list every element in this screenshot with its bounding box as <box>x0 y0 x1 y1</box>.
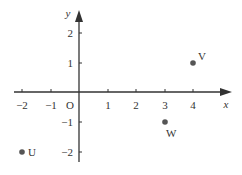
point-w-label: W <box>166 127 177 139</box>
y-axis-arrow-icon <box>75 10 83 22</box>
coordinate-plane: −2 −1 1 2 3 4 O 2 1 −1 −2 x y U V W <box>0 0 242 175</box>
y-tick-label: 1 <box>68 57 74 69</box>
y-tick-label: −2 <box>61 146 73 158</box>
x-axis-label: x <box>223 98 229 110</box>
origin-label: O <box>66 99 74 111</box>
x-tick-label: 2 <box>133 99 139 111</box>
y-tick-label: 2 <box>68 27 74 39</box>
point-u <box>19 149 25 155</box>
x-tick-label: 3 <box>162 99 168 111</box>
x-tick-label: −2 <box>16 99 28 111</box>
point-u-label: U <box>28 146 36 158</box>
x-tick-label: −1 <box>45 99 57 111</box>
point-v <box>190 60 196 66</box>
x-axis-arrow-icon <box>220 88 232 96</box>
x-tick-label: 1 <box>105 99 111 111</box>
y-tick-label: −1 <box>61 116 73 128</box>
x-tick-label: 4 <box>190 99 196 111</box>
point-w <box>162 119 168 125</box>
y-axis-label: y <box>65 7 71 19</box>
point-v-label: V <box>198 50 206 62</box>
